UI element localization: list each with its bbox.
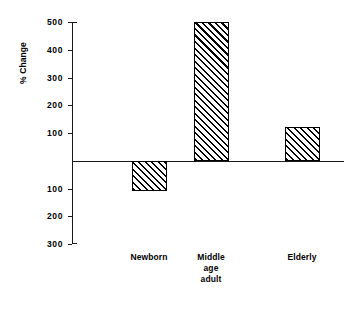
bar-chart-figure: % Change 500400300200100100200300 Newbor… [0,0,358,310]
y-axis-tick: 200 [68,216,72,217]
y-axis-tick-label: 300 [47,73,63,83]
y-axis-tick: 100 [68,133,72,134]
x-axis-category-label: Elderly [257,252,347,263]
y-axis-bottom-cap [72,243,77,244]
zero-baseline [72,161,344,162]
y-axis-line [72,22,73,244]
y-axis-tick-label: 200 [47,211,63,221]
y-axis-tick-label: 100 [47,184,63,194]
plot-area: 500400300200100100200300 [72,22,344,244]
y-axis-tick: 100 [68,189,72,190]
y-axis-title: % Change [13,18,33,108]
y-axis-tick: 300 [68,244,72,245]
bar [285,127,320,160]
y-axis-tick-label: 400 [47,45,63,55]
x-axis-category-label: Middle age adult [166,252,256,285]
y-axis-tick: 200 [68,105,72,106]
bar [194,22,229,161]
y-axis-tick-label: 200 [47,100,63,110]
y-axis-tick: 300 [68,78,72,79]
y-axis-tick-label: 500 [47,17,63,27]
y-axis-tick: 500 [68,22,72,23]
bar [132,161,167,192]
y-axis-tick-label: 300 [47,239,63,249]
y-axis-top-cap [72,22,77,23]
y-axis-tick-label: 100 [47,128,63,138]
y-axis-tick: 400 [68,50,72,51]
